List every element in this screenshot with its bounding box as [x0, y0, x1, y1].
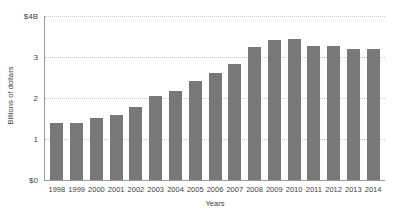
x-axis-tick-label: 2008	[246, 185, 263, 194]
x-axis-tick-slot: 2007	[225, 182, 245, 196]
bar-slot	[363, 16, 383, 180]
bar[interactable]	[50, 123, 63, 180]
y-axis-tick-label: 1	[34, 135, 38, 144]
x-axis-tick-label: 1998	[49, 185, 66, 194]
bar[interactable]	[268, 40, 281, 180]
x-axis-tick-slot: 2014	[363, 182, 383, 196]
x-axis-tick-slot: 1998	[47, 182, 67, 196]
x-axis-tick-label: 2009	[266, 185, 283, 194]
bar-slot	[343, 16, 363, 180]
x-axis-tick-slot: 2001	[106, 182, 126, 196]
bar[interactable]	[189, 81, 202, 180]
bar[interactable]	[70, 123, 83, 180]
x-axis-tick-label: 1999	[68, 185, 85, 194]
bar-slot	[47, 16, 67, 180]
x-axis-tick-slot: 2009	[264, 182, 284, 196]
x-axis-tick-label: 2005	[187, 185, 204, 194]
x-axis-title: Years	[45, 199, 385, 208]
bar-slot	[284, 16, 304, 180]
bar[interactable]	[367, 49, 380, 180]
x-axis-tick-label: 2014	[365, 185, 382, 194]
x-axis-tick-slot: 2000	[87, 182, 107, 196]
bar-slot	[126, 16, 146, 180]
x-axis-tick-label: 2002	[128, 185, 145, 194]
bar[interactable]	[169, 91, 182, 180]
y-axis-tick-label: 3	[34, 53, 38, 62]
bar-slot	[205, 16, 225, 180]
x-axis-tick-label: 2010	[286, 185, 303, 194]
x-axis-tick-label: 2003	[147, 185, 164, 194]
y-axis-title-text: Billions of dollars	[6, 66, 15, 124]
x-axis-tick-slot: 2004	[166, 182, 186, 196]
x-axis-tick-labels: 1998199920002001200220032004200520062007…	[45, 182, 385, 196]
bar-chart: Billions of dollars $0123$4B 19981999200…	[0, 0, 395, 223]
x-axis-tick-label: 2011	[306, 185, 322, 194]
x-axis-tick-slot: 1999	[67, 182, 87, 196]
bar-slot	[166, 16, 186, 180]
x-axis-tick-label: 2004	[167, 185, 184, 194]
bar[interactable]	[307, 46, 320, 180]
plot-area	[45, 16, 385, 180]
bar[interactable]	[248, 47, 261, 180]
y-axis-tick-label: 2	[34, 94, 38, 103]
bar-slot	[185, 16, 205, 180]
bar-slot	[106, 16, 126, 180]
x-axis-tick-label: 2012	[325, 185, 342, 194]
bar[interactable]	[209, 73, 222, 180]
bar-slot	[264, 16, 284, 180]
bar-slot	[324, 16, 344, 180]
x-axis-tick-slot: 2008	[245, 182, 265, 196]
bar[interactable]	[347, 49, 360, 180]
bar-slot	[304, 16, 324, 180]
bar[interactable]	[149, 96, 162, 180]
bar-slot	[146, 16, 166, 180]
bar[interactable]	[110, 115, 123, 180]
x-axis-tick-slot: 2010	[284, 182, 304, 196]
x-axis-tick-slot: 2011	[304, 182, 324, 196]
x-axis-tick-slot: 2005	[185, 182, 205, 196]
bar-slot	[67, 16, 87, 180]
y-axis-title: Billions of dollars	[2, 0, 18, 190]
bar-slot	[245, 16, 265, 180]
bar[interactable]	[288, 39, 301, 180]
x-axis-tick-label: 2001	[108, 185, 125, 194]
x-axis-tick-label: 2006	[207, 185, 224, 194]
bar[interactable]	[327, 46, 340, 180]
y-axis-tick-labels: $0123$4B	[0, 0, 42, 223]
y-axis-tick-label: $4B	[24, 12, 38, 21]
bar-slot	[225, 16, 245, 180]
bar[interactable]	[228, 64, 241, 180]
x-axis-tick-slot: 2006	[205, 182, 225, 196]
x-axis-tick-label: 2007	[226, 185, 243, 194]
x-axis-tick-slot: 2012	[324, 182, 344, 196]
x-axis-tick-label: 2000	[88, 185, 105, 194]
bar-slot	[87, 16, 107, 180]
bar-series	[45, 16, 385, 180]
bar[interactable]	[90, 118, 103, 180]
x-axis-tick-slot: 2013	[343, 182, 363, 196]
x-axis-tick-slot: 2002	[126, 182, 146, 196]
x-axis-line	[44, 180, 385, 181]
x-axis-tick-label: 2013	[345, 185, 362, 194]
y-axis-tick-label: $0	[29, 176, 38, 185]
x-axis-tick-slot: 2003	[146, 182, 166, 196]
bar[interactable]	[129, 107, 142, 180]
